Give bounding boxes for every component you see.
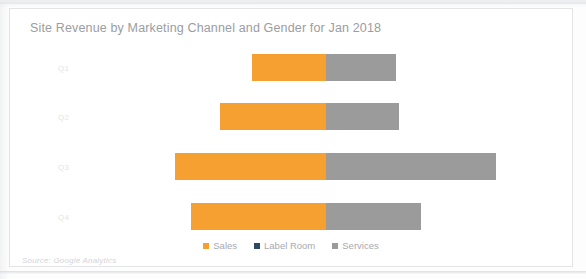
bar-row: Q3 (10, 153, 574, 180)
scan-artifact-bottom (0, 271, 586, 274)
bar-segment-sales (175, 153, 326, 180)
category-label: Q4 (58, 212, 69, 221)
bar-segment-sales (252, 54, 326, 81)
category-label: Q1 (58, 63, 69, 72)
bar-segment-services (326, 203, 421, 230)
bar-segment-services (326, 153, 496, 180)
legend-item[interactable]: Sales (203, 240, 237, 251)
category-label: Q3 (58, 162, 69, 171)
legend-swatch-icon (332, 243, 338, 249)
chart-card: Site Revenue by Marketing Channel and Ge… (9, 8, 573, 267)
bar-segment-services (326, 103, 399, 130)
legend-swatch-icon (254, 243, 260, 249)
bar-segment-services (326, 54, 396, 81)
legend-swatch-icon (203, 243, 209, 249)
category-label: Q2 (58, 112, 69, 121)
bar-segment-sales (191, 203, 326, 230)
bar-row: Q1 (10, 54, 574, 81)
legend-item[interactable]: Label Room (254, 240, 315, 251)
legend-label: Services (342, 240, 378, 251)
legend-label: Sales (213, 240, 237, 251)
source-note: Source: Google Analytics (22, 256, 116, 265)
bar-row: Q2 (10, 103, 574, 130)
bar-row: Q4 (10, 203, 574, 230)
legend-label: Label Room (264, 240, 315, 251)
scan-artifact-top (0, 2, 586, 4)
chart-title: Site Revenue by Marketing Channel and Ge… (30, 21, 381, 35)
bar-segment-sales (220, 103, 326, 130)
legend-item[interactable]: Services (332, 240, 378, 251)
plot-area: Q1Q2Q3Q4 (10, 45, 574, 233)
chart-legend: SalesLabel RoomServices (10, 240, 572, 251)
